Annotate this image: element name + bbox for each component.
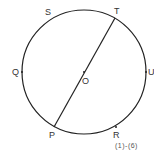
label-o: O <box>82 77 89 86</box>
diagram-svg <box>0 0 154 154</box>
point-u-dot <box>145 71 147 73</box>
center-dot <box>83 71 85 73</box>
circle-diagram: S T Q U P R O (1)-(6) <box>0 0 154 154</box>
point-r-dot <box>115 126 117 128</box>
label-t: T <box>114 7 120 16</box>
label-s: S <box>45 8 51 17</box>
label-r: R <box>113 131 120 140</box>
label-p: P <box>49 131 55 140</box>
point-q-dot <box>21 71 23 73</box>
caption: (1)-(6) <box>115 142 138 149</box>
label-q: Q <box>12 68 19 77</box>
label-u: U <box>148 68 154 77</box>
